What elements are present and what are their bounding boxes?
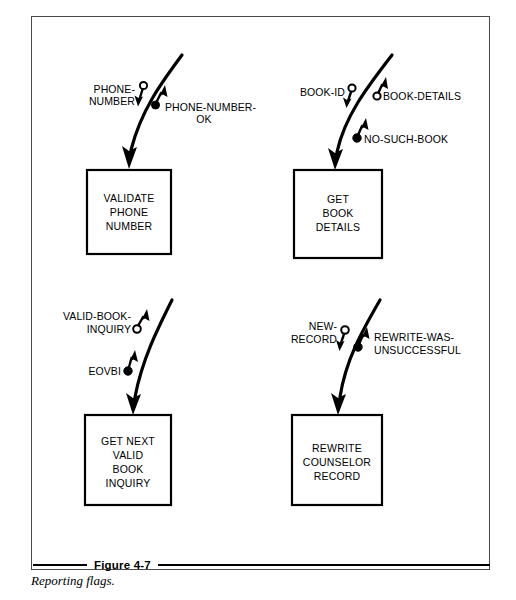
figure-border	[31, 16, 490, 570]
figure-number: Figure 4-7	[87, 559, 158, 571]
figure-page: PHONE- NUMBER PHONE-NUMBER- OK VALIDATE …	[0, 0, 516, 600]
caption-rule-row: Figure 4-7	[31, 558, 490, 572]
caption-rule-right	[158, 564, 490, 566]
figure-title: Reporting flags.	[31, 573, 115, 589]
caption-rule-left	[33, 564, 87, 566]
figure-caption: Figure 4-7 Reporting flags.	[31, 558, 490, 598]
